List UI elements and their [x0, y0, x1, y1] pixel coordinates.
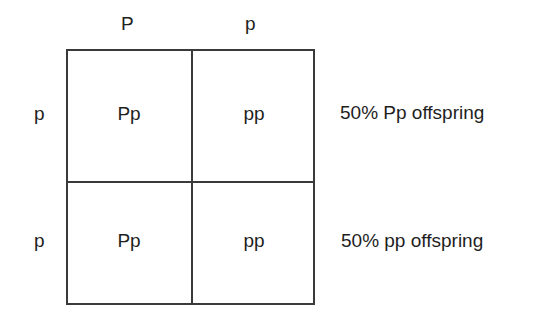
cell-r1-c2: pp: [194, 104, 314, 124]
column-allele-1: P: [121, 14, 134, 34]
row-allele-2: p: [34, 231, 45, 251]
cell-r2-c2: pp: [194, 231, 314, 251]
punnett-grid: Pp pp Pp pp: [66, 49, 315, 305]
result-pp-recessive: 50% pp offspring: [341, 231, 483, 251]
cell-r1-c1: Pp: [69, 104, 189, 124]
row-allele-1: p: [34, 104, 45, 124]
column-allele-2: p: [245, 14, 256, 34]
result-pp-dominant: 50% Pp offspring: [340, 103, 484, 123]
grid-divider-horizontal: [68, 181, 313, 183]
grid-divider-vertical: [191, 51, 193, 303]
cell-r2-c1: Pp: [69, 231, 189, 251]
